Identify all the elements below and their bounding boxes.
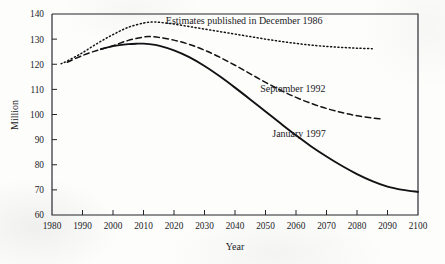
x-tick-label-2050: 2050 bbox=[256, 221, 275, 231]
y-tick-label-70: 70 bbox=[35, 185, 45, 195]
series-line-dotted bbox=[61, 22, 372, 64]
series-label-dashed: September 1992 bbox=[260, 83, 325, 94]
y-axis-ticks bbox=[52, 39, 57, 190]
x-tick-label-1980: 1980 bbox=[43, 221, 62, 231]
x-tick-label-2100: 2100 bbox=[409, 221, 428, 231]
y-axis-tick-labels: 60708090100110120130140 bbox=[30, 9, 44, 220]
x-tick-label-2010: 2010 bbox=[134, 221, 153, 231]
x-tick-label-2060: 2060 bbox=[287, 221, 306, 231]
data-series-group bbox=[61, 22, 418, 192]
x-tick-label-1990: 1990 bbox=[73, 221, 92, 231]
y-tick-label-60: 60 bbox=[35, 210, 45, 220]
x-tick-label-2090: 2090 bbox=[378, 221, 397, 231]
y-tick-label-80: 80 bbox=[35, 160, 45, 170]
x-tick-label-2020: 2020 bbox=[165, 221, 184, 231]
y-tick-label-130: 130 bbox=[30, 35, 44, 45]
y-tick-label-100: 100 bbox=[30, 110, 44, 120]
x-tick-label-2080: 2080 bbox=[348, 221, 367, 231]
x-axis-tick-labels: 1980199020002010202020302040205020602070… bbox=[43, 221, 428, 231]
x-tick-label-2030: 2030 bbox=[195, 221, 214, 231]
figure-container: 60708090100110120130140 1980199020002010… bbox=[0, 0, 445, 264]
y-axis-title: Million bbox=[9, 100, 20, 130]
y-tick-label-110: 110 bbox=[30, 85, 44, 95]
y-tick-label-90: 90 bbox=[35, 135, 45, 145]
series-label-dotted: Estimates published in December 1986 bbox=[166, 15, 323, 26]
series-label-solid: January 1997 bbox=[272, 128, 326, 139]
x-axis-ticks bbox=[83, 210, 388, 215]
y-tick-label-120: 120 bbox=[30, 60, 44, 70]
series-annotations-group: Estimates published in December 1986Sept… bbox=[166, 15, 326, 139]
x-axis-title: Year bbox=[226, 241, 245, 252]
x-tick-label-2000: 2000 bbox=[104, 221, 123, 231]
plot-frame bbox=[52, 14, 418, 215]
x-tick-label-2070: 2070 bbox=[317, 221, 336, 231]
y-tick-label-140: 140 bbox=[30, 9, 44, 19]
x-tick-label-2040: 2040 bbox=[226, 221, 245, 231]
population-projection-chart: 60708090100110120130140 1980199020002010… bbox=[0, 0, 445, 264]
series-line-dashed bbox=[67, 37, 381, 119]
